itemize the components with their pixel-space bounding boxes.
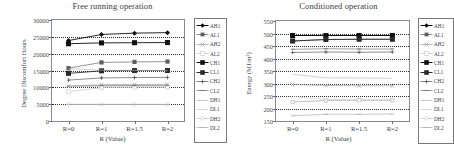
- legend-item-DL2[interactable]: DL2: [196, 123, 224, 132]
- legend-marker-AL2-icon: [420, 49, 433, 58]
- series-DL2: [291, 114, 395, 116]
- series-AH2: [291, 83, 395, 88]
- data-point: [166, 85, 169, 88]
- data-point: [132, 60, 136, 64]
- data-point: [291, 100, 294, 103]
- data-point: [67, 78, 71, 82]
- data-point: [99, 32, 104, 37]
- legend-label: AH1: [209, 23, 220, 29]
- legend-label: AH2: [209, 41, 220, 47]
- legend-label: AL1: [209, 32, 220, 38]
- legend-item-CL1[interactable]: CL1: [420, 67, 451, 76]
- legend-label: CL2: [433, 88, 444, 94]
- legend-label: CH2: [433, 78, 444, 84]
- data-point: [357, 37, 362, 42]
- data-point: [324, 50, 328, 54]
- series-CH1: [66, 40, 170, 46]
- legend-item-DH1[interactable]: DH1: [196, 95, 224, 104]
- legend-label: CL2: [209, 88, 220, 94]
- legend-item-CL2[interactable]: CL2: [196, 86, 224, 95]
- legend-label: CH2: [209, 78, 220, 84]
- legend-marker-AH1-icon: [196, 21, 209, 30]
- legend-label: AL1: [433, 32, 444, 38]
- y-tick-label: 500: [263, 30, 276, 37]
- x-tick-mark: [326, 121, 327, 124]
- legend-marker-CH2-icon: [196, 77, 209, 86]
- series-DH1: [293, 74, 393, 78]
- legend-label: CL1: [433, 69, 444, 75]
- x-axis-label-left: R (Value): [0, 135, 225, 142]
- y-tick-label: 150: [263, 118, 276, 125]
- legend-label: DH1: [209, 97, 220, 103]
- legend-item-AL1[interactable]: AL1: [196, 30, 224, 39]
- data-point: [165, 59, 169, 63]
- y-tick-label: 5000: [36, 101, 52, 108]
- legend-label: DL2: [433, 125, 444, 131]
- data-point: [100, 76, 104, 80]
- legend-item-AL2[interactable]: AL2: [196, 49, 224, 58]
- x-tick-label: R=0: [287, 125, 298, 132]
- legend-item-DL1[interactable]: DL1: [420, 105, 451, 114]
- legend-label: CH1: [433, 60, 444, 66]
- y-tick-label: 350: [263, 68, 276, 75]
- legend-marker-CH2-icon: [420, 77, 433, 86]
- data-point: [166, 76, 170, 80]
- legend-label: DL2: [209, 125, 220, 131]
- data-point: [132, 31, 137, 36]
- y-tick-label: 400: [263, 55, 276, 62]
- legend-item-DH1[interactable]: DH1: [420, 95, 451, 104]
- legend-item-AL2[interactable]: AL2: [420, 49, 451, 58]
- data-point: [357, 50, 361, 54]
- data-point: [324, 99, 327, 102]
- series-CL1: [290, 37, 395, 44]
- data-point: [165, 30, 170, 35]
- data-point: [291, 51, 295, 55]
- legend-item-CL1[interactable]: CL1: [196, 67, 224, 76]
- legend-marker-CL1-icon: [420, 68, 433, 77]
- legend-marker-AL1-icon: [420, 30, 433, 39]
- legend-marker-DL1-icon: [420, 105, 433, 114]
- legend-label: DL1: [209, 106, 220, 112]
- y-tick-label: 25000: [33, 33, 52, 40]
- data-point: [132, 40, 137, 45]
- legend-label: CL1: [209, 69, 220, 75]
- legend-right[interactable]: AH1AL1AH2AL2CH1CL1CH2CL2DH1DL1DH2DL2: [418, 18, 454, 144]
- legend-item-DL1[interactable]: DL1: [196, 105, 224, 114]
- legend-marker-AL2-icon: [196, 49, 209, 58]
- legend-marker-DH2-icon: [420, 114, 433, 123]
- legend-item-DL2[interactable]: DL2: [420, 123, 451, 132]
- legend-item-CL2[interactable]: CL2: [420, 86, 451, 95]
- legend-item-DH2[interactable]: DH2: [196, 114, 224, 123]
- data-point: [99, 60, 103, 64]
- legend-item-CH2[interactable]: CH2: [196, 77, 224, 86]
- data-point: [390, 37, 395, 42]
- y-tick-label: 450: [263, 43, 276, 50]
- legend-item-DH2[interactable]: DH2: [420, 114, 451, 123]
- legend-item-CH2[interactable]: CH2: [420, 77, 451, 86]
- legend-item-AH1[interactable]: AH1: [196, 21, 224, 30]
- legend-item-AH2[interactable]: AH2: [196, 40, 224, 49]
- data-point: [290, 33, 295, 38]
- legend-item-CH1[interactable]: CH1: [196, 58, 224, 67]
- legend-item-CH1[interactable]: CH1: [420, 58, 451, 67]
- chart-panel-free-running: Free running operation Degree Discomfort…: [0, 0, 225, 154]
- legend-item-AL1[interactable]: AL1: [420, 30, 451, 39]
- data-point: [391, 99, 394, 102]
- legend-marker-AH2-icon: [420, 40, 433, 49]
- x-tick-mark: [293, 121, 294, 124]
- data-point: [133, 76, 137, 80]
- x-tick-mark: [69, 121, 70, 124]
- legend-left[interactable]: AH1AL1AH2AL2CH1CL1CH2CL2DH1DL1DH2DL2: [194, 18, 227, 143]
- legend-label: AH1: [433, 23, 444, 29]
- x-tick-mark: [135, 121, 136, 124]
- x-tick-mark: [392, 121, 393, 124]
- legend-marker-DL2-icon: [420, 123, 433, 132]
- legend-item-AH1[interactable]: AH1: [420, 21, 451, 30]
- legend-item-AH2[interactable]: AH2: [420, 40, 451, 49]
- series-AH1: [66, 30, 170, 43]
- x-tick-label: R=1.5: [351, 125, 367, 132]
- legend-label: DL1: [433, 106, 444, 112]
- legend-marker-DH1-icon: [420, 96, 433, 105]
- x-tick-mark: [102, 121, 103, 124]
